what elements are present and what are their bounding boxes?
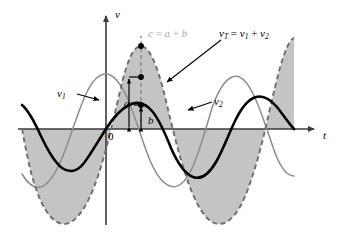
equation-c-plus: + bbox=[170, 27, 182, 39]
curve-label-v1-sub: 1 bbox=[62, 92, 66, 101]
equation-c-term2: b bbox=[182, 27, 188, 39]
curve-label-v1: v1 bbox=[57, 88, 66, 100]
equation-c: c = a + b bbox=[148, 28, 187, 39]
leader-v2 bbox=[188, 102, 212, 110]
resultant-fill-region bbox=[22, 38, 294, 224]
point-a-on-v1 bbox=[138, 74, 144, 80]
equation-vt: vT = v1 + v2 bbox=[219, 28, 269, 40]
equation-vt-plus: + bbox=[248, 27, 260, 39]
equation-c-equals: = bbox=[153, 27, 165, 39]
equation-vt-term2-sub: 2 bbox=[265, 32, 269, 41]
leader-v1 bbox=[77, 94, 99, 100]
measure-label-b: b bbox=[148, 115, 154, 126]
point-b-on-v2 bbox=[138, 102, 144, 108]
leader-vt bbox=[167, 40, 221, 82]
t-axis-label: t bbox=[323, 130, 326, 141]
measure-label-a: a bbox=[124, 98, 130, 109]
v-axis-label: v bbox=[115, 9, 120, 20]
curve-label-v2-sub: 2 bbox=[219, 100, 223, 109]
curve-label-v2: v2 bbox=[214, 96, 223, 108]
equation-vt-equals: = bbox=[228, 27, 240, 39]
origin-label: 0 bbox=[108, 131, 114, 142]
point-c-peak bbox=[138, 43, 144, 49]
waveform-superposition-figure: v t 0 v1 v2 vT = v1 + v2 c = a + b a b bbox=[0, 0, 339, 240]
